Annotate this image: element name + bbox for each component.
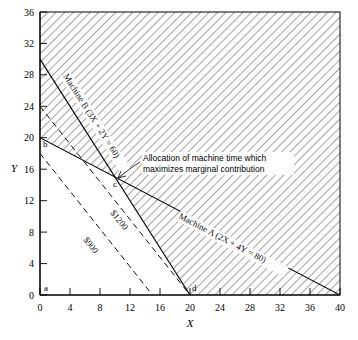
chart-canvas: 0 4 8 12 16 20 24 28 32 36 Y 0: [0, 0, 358, 340]
x-axis-tick-labels: 0 4 8 12 16 20 24 28 32 36 40: [38, 302, 346, 313]
y-axis-title: Y: [11, 162, 19, 174]
x-tick-label: 16: [155, 302, 165, 313]
iso-1200-label-group: $1200: [106, 206, 134, 237]
y-tick-label: 28: [24, 69, 34, 80]
y-tick-label: 4: [29, 258, 34, 269]
annotation-line-1: Allocation of machine time which: [143, 153, 267, 163]
x-tick-label: 28: [245, 302, 255, 313]
vertex-label-a: a: [44, 283, 48, 293]
x-tick-label: 8: [98, 302, 103, 313]
x-tick-label: 20: [185, 302, 195, 313]
x-tick-label: 32: [275, 302, 285, 313]
y-tick-label: 20: [24, 132, 34, 143]
y-tick-label: 0: [29, 290, 34, 301]
x-tick-label: 0: [38, 302, 43, 313]
iso-900-label-group: $900: [79, 233, 104, 261]
x-tick-label: 24: [215, 302, 225, 313]
y-tick-label: 36: [24, 7, 34, 18]
y-tick-label: 16: [24, 164, 34, 175]
x-tick-label: 40: [335, 302, 345, 313]
vertex-label-b: b: [43, 139, 48, 149]
y-tick-label: 8: [29, 227, 34, 238]
annotation-line-2: maximizes marginal contribution: [143, 164, 265, 174]
y-tick-label: 12: [24, 195, 34, 206]
x-axis-title: X: [186, 317, 195, 329]
vertex-label-d: d: [192, 283, 197, 293]
vertex-label-c: c: [113, 179, 117, 189]
optimum-annotation: Allocation of machine time which maximiz…: [118, 152, 294, 178]
y-tick-label: 24: [24, 101, 34, 112]
x-tick-label: 12: [125, 302, 135, 313]
x-tick-label: 4: [68, 302, 73, 313]
x-tick-label: 36: [305, 302, 315, 313]
linear-programming-chart: 0 4 8 12 16 20 24 28 32 36 Y 0: [0, 0, 358, 340]
y-axis-tick-labels: 0 4 8 12 16 20 24 28 32 36: [24, 7, 34, 301]
y-tick-label: 32: [24, 38, 34, 49]
